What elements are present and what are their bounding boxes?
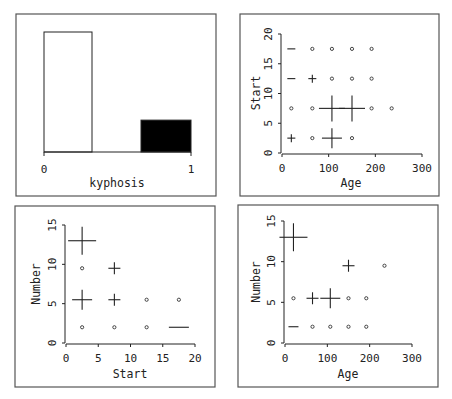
x-tick-label: 100: [317, 352, 337, 365]
x-tick-label: 15: [156, 352, 169, 365]
point-marker: [330, 77, 333, 80]
plot-area: 010020030005101520: [262, 27, 432, 175]
x-tick-label: 0: [282, 352, 289, 365]
x-tick-label: 0: [279, 162, 286, 175]
point-marker: [390, 107, 393, 110]
point-marker: [370, 47, 373, 50]
point-marker: [81, 326, 84, 329]
x-tick-label: 300: [412, 162, 432, 175]
point-marker: [370, 107, 373, 110]
point-marker: [311, 47, 314, 50]
panel-kyphosis-bar: 0 1 kyphosis: [16, 14, 216, 196]
point-marker: [311, 137, 314, 140]
point-marker: [113, 326, 116, 329]
x-tick-label: 0: [41, 163, 48, 176]
point-marker: [177, 298, 180, 301]
y-tick-label: 0: [265, 340, 278, 347]
x-tick-label: 5: [95, 352, 102, 365]
plot-area: 0100200300051015: [265, 214, 422, 365]
point-marker: [350, 137, 353, 140]
y-tick-label: 5: [265, 299, 278, 306]
y-tick-label: 20: [262, 27, 275, 40]
x-tick-label: 1: [188, 163, 195, 176]
point-marker: [329, 325, 332, 328]
bars: [44, 32, 191, 152]
y-tick-label: 5: [46, 300, 59, 307]
plot-area: 05101520051015: [46, 218, 202, 365]
point-marker: [311, 107, 314, 110]
y-tick-label: 15: [265, 214, 278, 227]
x-tick-label: 0: [63, 352, 70, 365]
y-tick-label: 0: [262, 150, 275, 157]
x-axis-label: Age: [341, 176, 362, 190]
point-marker: [347, 325, 350, 328]
y-axis-label: Number: [29, 263, 43, 305]
y-tick-label: 10: [262, 87, 275, 100]
point-marker: [365, 325, 368, 328]
x-tick-label: 10: [124, 352, 137, 365]
point-marker: [145, 298, 148, 301]
point-marker: [311, 325, 314, 328]
panel-number-vs-age: 0100200300051015 Number Age: [238, 205, 438, 387]
x-tick-label: 200: [365, 162, 385, 175]
y-axis-label: Start: [249, 76, 263, 111]
chart-canvas: 0 1 kyphosis 010020030005101520 Start Ag…: [0, 0, 452, 399]
point-marker: [370, 77, 373, 80]
x-tick-label: 20: [188, 352, 201, 365]
point-marker: [347, 297, 350, 300]
point-marker: [383, 264, 386, 267]
panel-start-vs-age: 010020030005101520 Start Age: [240, 14, 439, 196]
point-marker: [145, 326, 148, 329]
point-marker: [350, 47, 353, 50]
x-tick-label: 100: [319, 162, 339, 175]
x-axis-label: Start: [113, 367, 148, 381]
point-marker: [365, 297, 368, 300]
bar-1: [141, 120, 191, 152]
x-tick-label: 200: [360, 352, 380, 365]
point-marker: [292, 297, 295, 300]
bar-0: [44, 32, 92, 152]
point-marker: [290, 107, 293, 110]
x-axis-label: Age: [338, 367, 359, 381]
y-tick-label: 15: [262, 57, 275, 70]
panel-number-vs-start: 05101520051015 Number Start: [15, 206, 215, 387]
y-tick-label: 10: [46, 258, 59, 271]
x-axis-label: kyphosis: [89, 176, 144, 190]
x-tick-label: 300: [402, 352, 422, 365]
y-tick-label: 15: [46, 218, 59, 231]
y-tick-label: 10: [265, 255, 278, 268]
y-tick-label: 0: [46, 340, 59, 347]
point-marker: [330, 47, 333, 50]
point-marker: [81, 267, 84, 270]
point-marker: [350, 77, 353, 80]
y-axis-label: Number: [249, 261, 263, 303]
panel-frame: [15, 206, 215, 387]
y-tick-label: 5: [262, 120, 275, 127]
